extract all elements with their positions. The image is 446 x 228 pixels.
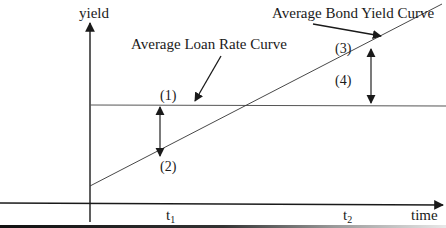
tick-t2: t2: [343, 208, 352, 225]
bond-yield-line: [90, 4, 442, 186]
marker-4: (4): [335, 74, 351, 88]
bond-curve-label: Average Bond Yield Curve: [272, 6, 434, 21]
loan-rate-line: [90, 105, 446, 106]
marker-3: (3): [335, 42, 351, 56]
marker-1: (1): [160, 89, 176, 103]
loan-curve-label: Average Loan Rate Curve: [131, 37, 287, 52]
x-axis-label: time: [411, 208, 438, 223]
bottom-border-band: [0, 225, 446, 228]
tick-t1-sub: 1: [170, 214, 175, 225]
diagram-canvas: [0, 0, 446, 228]
bond-curve-pointer-arrow: [313, 24, 381, 36]
loan-curve-pointer-arrow: [195, 56, 221, 101]
y-axis-label: yield: [79, 6, 109, 21]
marker-2: (2): [160, 160, 176, 174]
tick-t2-sub: 2: [347, 214, 352, 225]
tick-t1: t1: [166, 208, 175, 225]
x-axis: [0, 203, 443, 205]
